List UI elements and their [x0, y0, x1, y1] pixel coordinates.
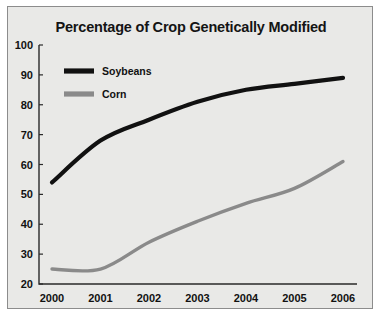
- y-tick-label: 30: [21, 248, 33, 260]
- chart-panel: Percentage of Crop Genetically Modified …: [7, 6, 373, 309]
- y-tick-label: 80: [21, 99, 33, 111]
- y-tick-label: 20: [21, 278, 33, 290]
- legend-label-corn: Corn: [102, 88, 127, 100]
- chart-legend: SoybeansCorn: [64, 65, 152, 100]
- y-tick-label: 70: [21, 129, 33, 141]
- y-tick-label: 40: [21, 218, 33, 230]
- figure-container: Percentage of Crop Genetically Modified …: [0, 0, 381, 317]
- x-tick-label: 2006: [331, 292, 355, 304]
- x-tick-label: 2001: [88, 292, 112, 304]
- x-tick-label: 2000: [40, 292, 64, 304]
- x-tick-label: 2003: [185, 292, 209, 304]
- line-chart-plot: 2030405060708090100 20002001200220032004…: [8, 7, 374, 310]
- y-tick-label: 90: [21, 69, 33, 81]
- series-line-soybeans: [52, 78, 343, 183]
- y-tick-label: 60: [21, 159, 33, 171]
- x-tick-label: 2002: [137, 292, 161, 304]
- y-axis-tick-labels: 2030405060708090100: [15, 39, 33, 290]
- x-tick-label: 2004: [234, 292, 259, 304]
- series-line-corn: [52, 162, 343, 272]
- series-lines: [52, 78, 343, 271]
- legend-label-soybeans: Soybeans: [102, 65, 152, 77]
- x-axis-tick-labels: 2000200120022003200420052006: [40, 292, 355, 304]
- y-tick-label: 100: [15, 39, 33, 51]
- y-tick-label: 50: [21, 188, 33, 200]
- x-tick-label: 2005: [282, 292, 306, 304]
